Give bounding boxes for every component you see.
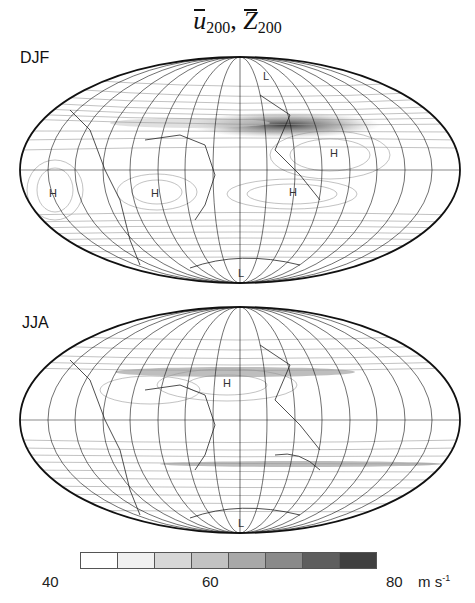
colorbar-tick-60: 60 xyxy=(202,573,219,590)
marker-djf-2: H xyxy=(330,147,338,159)
colorbar-swatch-6 xyxy=(266,553,303,568)
colorbar-swatch-8 xyxy=(340,553,376,568)
colorbar-swatch-4 xyxy=(192,553,229,568)
colorbar-swatch-5 xyxy=(229,553,266,568)
marker-djf-3: H xyxy=(289,186,297,198)
marker-djf-6: L xyxy=(238,267,244,279)
marker-djf-1: L xyxy=(263,70,269,82)
colorbar-tick-40: 40 xyxy=(42,573,59,590)
colorbar-swatch-7 xyxy=(303,553,340,568)
map-jja: H L xyxy=(0,300,475,550)
colorbar-unit: m s-1 xyxy=(418,573,450,590)
colorbar-swatch-3 xyxy=(155,553,192,568)
marker-djf-5: H xyxy=(151,187,159,199)
colorbar-tick-80: 80 xyxy=(386,573,403,590)
map-djf: L H H H H L xyxy=(0,0,475,290)
marker-jja-1: H xyxy=(223,377,231,389)
colorbar-swatch-2 xyxy=(118,553,155,568)
marker-jja-2: L xyxy=(238,517,244,529)
colorbar xyxy=(80,552,377,569)
marker-djf-4: H xyxy=(49,187,57,199)
colorbar-swatch-1 xyxy=(81,553,118,568)
